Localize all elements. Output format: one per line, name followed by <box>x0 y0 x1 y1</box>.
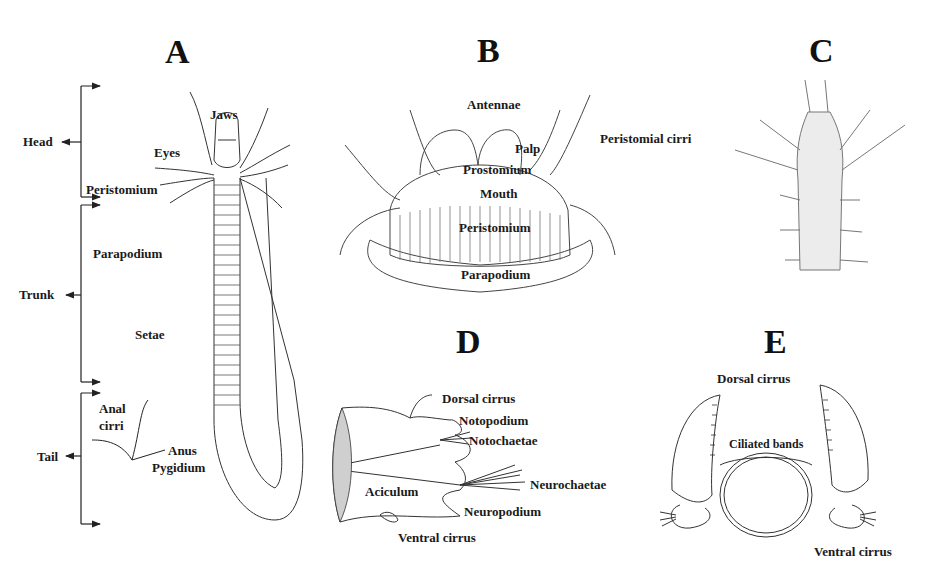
panel-b-letter: B <box>477 34 500 68</box>
panel-a-region-brackets <box>62 86 100 524</box>
label-palp: Palp <box>515 142 540 155</box>
label-anus: Anus <box>168 444 197 457</box>
panel-e-cross-section-drawing <box>660 385 876 537</box>
label-jaws: Jaws <box>210 108 237 121</box>
label-pygidium: Pygidium <box>152 461 205 474</box>
panel-a-letter: A <box>165 35 190 69</box>
label-neuropodium: Neuropodium <box>464 505 541 518</box>
label-antennae: Antennae <box>467 98 520 111</box>
label-neurochaetae: Neurochaetae <box>530 478 606 491</box>
label-setae: Setae <box>135 328 165 341</box>
panel-a-segments <box>214 185 240 405</box>
panel-d-letter: D <box>456 325 481 359</box>
label-ciliated-bands: Ciliated bands <box>729 438 803 450</box>
label-notochaetae: Notochaetae <box>469 434 538 447</box>
label-notopodium: Notopodium <box>459 414 528 427</box>
label-prostomium: Prostomium <box>463 163 531 176</box>
label-dorsal-cirrus-e: Dorsal cirrus <box>717 372 790 385</box>
label-peristomium-b: Peristomium <box>459 221 530 234</box>
label-anal-cirri-line2: cirri <box>99 419 124 432</box>
label-dorsal-cirrus-d: Dorsal cirrus <box>442 392 515 405</box>
label-aciculum: Aciculum <box>365 485 418 498</box>
label-parapodium-a: Parapodium <box>93 247 162 260</box>
label-head: Head <box>23 135 53 148</box>
label-parapodium-b: Parapodium <box>461 268 530 281</box>
label-peristomial-cirri: Peristomial cirri <box>600 132 691 145</box>
label-ventral-cirrus-d: Ventral cirrus <box>398 531 476 544</box>
label-tail: Tail <box>37 450 58 463</box>
panel-d-stippled-base <box>333 408 352 522</box>
panel-b-head-drawing <box>340 95 615 292</box>
panel-c-worm-fragment <box>735 80 905 270</box>
label-trunk: Trunk <box>19 288 54 301</box>
label-anal-cirri-line1: Anal <box>99 402 126 415</box>
figure-drawings <box>0 0 933 587</box>
label-ventral-cirrus-e: Ventral cirrus <box>814 545 892 558</box>
label-mouth: Mouth <box>480 187 518 200</box>
panel-c-letter: C <box>809 34 834 68</box>
label-peristomium-a: Peristomium <box>86 183 157 196</box>
panel-e-letter: E <box>764 325 787 359</box>
label-eyes: Eyes <box>154 146 180 159</box>
